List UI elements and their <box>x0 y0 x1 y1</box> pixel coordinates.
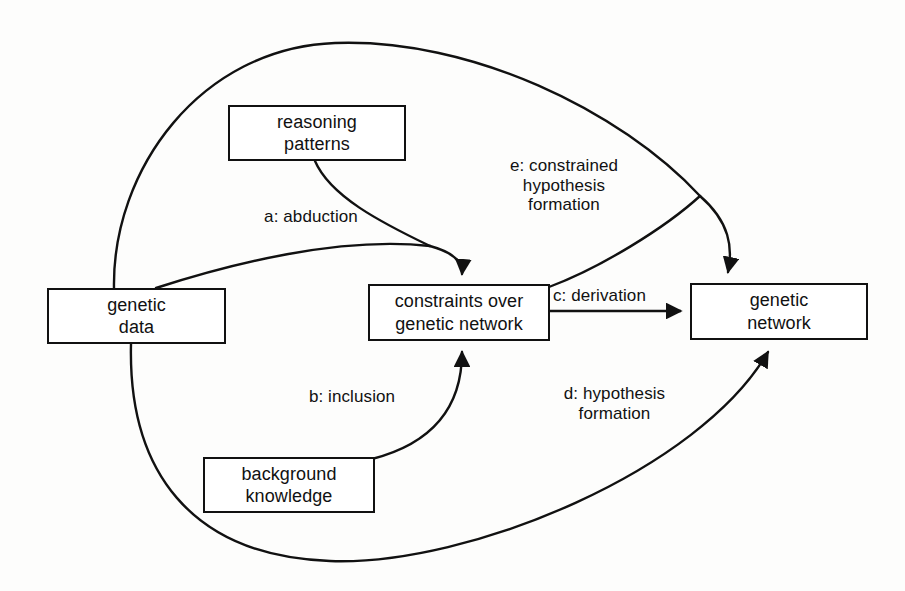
edge-a-arrow-path <box>430 246 462 274</box>
node-genetic-network[interactable]: genetic network <box>690 283 868 340</box>
edge-a-from-reasoning-patterns-path <box>315 161 430 246</box>
node-genetic-network-line-2: network <box>747 312 811 335</box>
node-genetic-data[interactable]: genetic data <box>47 288 226 344</box>
node-constraints-over-genetic-network[interactable]: constraints over genetic network <box>368 284 550 341</box>
node-background-knowledge-line-2: knowledge <box>246 485 333 508</box>
edge-label-b: b: inclusion <box>297 387 407 407</box>
edge-d-path <box>131 344 768 561</box>
diagram-canvas: reasoning patterns genetic data constrai… <box>0 0 905 591</box>
node-constraints-line-1: constraints over <box>395 290 524 313</box>
edge-label-d-line-1: d: hypothesis <box>546 384 683 404</box>
edge-label-c-line-1: c: derivation <box>553 286 668 306</box>
edge-label-c: c: derivation <box>553 286 668 306</box>
edge-label-d: d: hypothesis formation <box>546 384 683 423</box>
node-reasoning-patterns-line-1: reasoning <box>277 111 357 134</box>
node-reasoning-patterns-line-2: patterns <box>284 133 350 156</box>
edge-e-arrow-path <box>700 196 730 272</box>
node-genetic-data-line-1: genetic <box>107 294 166 317</box>
node-background-knowledge-line-1: background <box>241 463 336 486</box>
edge-label-d-line-2: formation <box>546 404 683 424</box>
node-genetic-data-line-2: data <box>119 316 154 339</box>
node-constraints-line-2: genetic network <box>395 313 523 336</box>
node-reasoning-patterns[interactable]: reasoning patterns <box>228 105 406 161</box>
edge-label-e-line-1: e: constrained <box>488 156 640 176</box>
edge-a-from-genetic-data-path <box>156 244 430 288</box>
edge-label-e-line-3: formation <box>488 195 640 215</box>
edge-label-e: e: constrained hypothesis formation <box>488 156 640 215</box>
node-genetic-network-line-1: genetic <box>750 289 809 312</box>
edge-label-e-line-2: hypothesis <box>488 176 640 196</box>
edge-label-a: a: abduction <box>251 207 371 227</box>
edge-label-a-line-1: a: abduction <box>251 207 371 227</box>
node-background-knowledge[interactable]: background knowledge <box>203 457 375 513</box>
edge-label-b-line-1: b: inclusion <box>297 387 407 407</box>
